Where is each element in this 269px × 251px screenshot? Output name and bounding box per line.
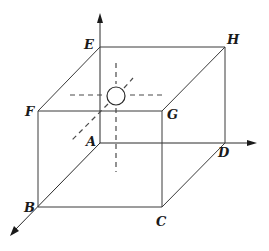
vertex-label-G: G bbox=[167, 108, 178, 121]
diagonal-dashed-line-upper bbox=[124, 78, 133, 88]
vertical-axis-arrow-icon bbox=[97, 13, 103, 23]
vertex-label-E: E bbox=[84, 38, 94, 51]
front-axis bbox=[14, 143, 100, 231]
cube-edges bbox=[38, 47, 225, 207]
edge-CD bbox=[162, 143, 225, 207]
vertex-label-F: F bbox=[25, 105, 34, 118]
vertex-label-C: C bbox=[156, 215, 166, 228]
vertex-label-H: H bbox=[227, 33, 239, 46]
edge-GH bbox=[162, 47, 225, 111]
vertex-label-B: B bbox=[24, 201, 35, 214]
right-axis-arrow-icon bbox=[247, 140, 257, 146]
dashed-guides bbox=[70, 63, 162, 172]
axes bbox=[10, 13, 257, 236]
sphere bbox=[107, 87, 125, 105]
vertex-label-A: A bbox=[86, 135, 96, 148]
vertex-label-D: D bbox=[218, 146, 229, 159]
edge-EF bbox=[38, 47, 100, 111]
